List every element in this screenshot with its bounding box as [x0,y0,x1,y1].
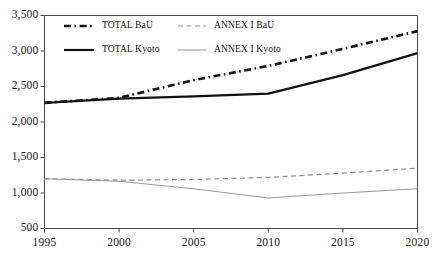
x-tick-label: 2015 [313,236,373,248]
legend-label-annex-i-bau: ANNEX I BaU [214,20,274,30]
series-line-annex-i-bau [45,168,418,180]
series-line-total-bau [45,31,418,103]
x-tick-label: 2010 [238,236,298,248]
x-tick-label: 2005 [164,236,224,248]
y-tick-label: 2,000 [12,115,39,127]
legend-label-annex-i-kyoto: ANNEX I Kyoto [214,44,281,54]
y-tick-label: 500 [21,221,39,233]
x-axis-ticks [45,229,418,233]
series-line-annex-i-kyoto [45,179,418,198]
legend-label-total-bau: TOTAL BaU [102,20,153,30]
x-tick-label: 1995 [15,236,75,248]
legend-label-total-kyoto: TOTAL Kyoto [102,44,160,54]
data-series-group [45,31,418,198]
series-line-total-kyoto [45,53,418,103]
y-tick-label: 2,500 [12,79,39,91]
y-axis-ticks [41,16,45,229]
y-tick-label: 3,500 [12,8,39,20]
y-tick-label: 3,000 [12,44,39,56]
x-tick-label: 2000 [89,236,149,248]
x-tick-label: 2020 [388,236,434,248]
y-tick-label: 1,000 [12,186,39,198]
y-tick-label: 1,500 [12,150,39,162]
